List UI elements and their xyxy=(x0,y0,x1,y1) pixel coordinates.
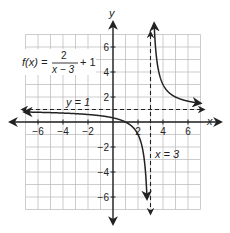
x-tick-label: 6 xyxy=(185,126,191,137)
function-label: f(x) = 2 x − 3 + 1 xyxy=(21,49,96,75)
x-tick-label: −2 xyxy=(82,126,94,137)
horizontal-asymptote-label: y = 1 xyxy=(65,96,90,108)
x-tick-label: −4 xyxy=(57,126,69,137)
x-axis-label: x xyxy=(206,115,213,127)
y-tick-label: 2 xyxy=(103,92,109,103)
y-tick-label: −6 xyxy=(98,192,110,203)
y-tick-label: 4 xyxy=(103,67,109,78)
x-tick-label: 2 xyxy=(135,126,141,137)
function-denominator: x − 3 xyxy=(51,64,74,75)
graph: −6−4−2246642−2−4−6 x y y = 1 x = 3 f(x) … xyxy=(0,0,230,233)
x-tick-label: 4 xyxy=(160,126,166,137)
y-axis-label: y xyxy=(108,7,116,19)
labels: x y y = 1 x = 3 f(x) = 2 x − 3 + 1 xyxy=(21,7,213,160)
function-suffix: + 1 xyxy=(80,56,96,68)
y-tick-label: −2 xyxy=(98,142,110,153)
function-prefix: f(x) = xyxy=(22,56,48,68)
x-tick-label: −6 xyxy=(32,126,44,137)
function-numerator: 2 xyxy=(61,50,67,61)
y-tick-label: 6 xyxy=(103,42,109,53)
y-tick-label: −4 xyxy=(98,167,110,178)
vertical-asymptote-label: x = 3 xyxy=(154,148,180,160)
